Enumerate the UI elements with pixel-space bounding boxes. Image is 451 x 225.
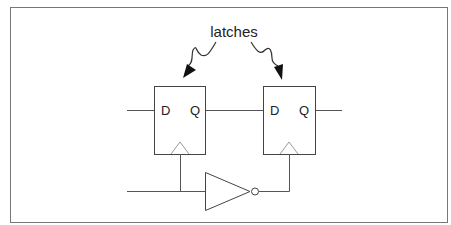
latch-2: D Q xyxy=(264,87,316,155)
latch-1: D Q xyxy=(155,87,206,155)
annotation-label: latches xyxy=(210,23,258,40)
latch1-d-label: D xyxy=(161,103,170,118)
latch-diagram: latches D Q D Q xyxy=(0,0,451,225)
latch2-q-label: Q xyxy=(299,103,309,118)
latch2-d-label: D xyxy=(270,103,279,118)
latch1-q-label: Q xyxy=(190,103,200,118)
